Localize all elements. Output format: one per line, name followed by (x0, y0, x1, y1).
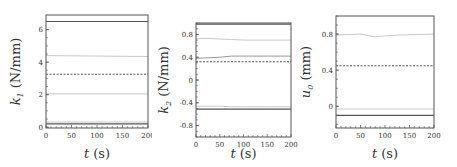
x-tick-label: 50 (67, 132, 76, 140)
x-tick-label: 200 (427, 132, 440, 140)
chart-panel-k1: 0501001502000246t (s)k1 (N/mm) (0, 0, 152, 167)
y-tick-label: 0.4 (182, 54, 194, 62)
x-tick-label: 50 (356, 132, 365, 140)
plot-frame (336, 16, 434, 128)
series-line-upper-light (196, 38, 291, 40)
y-tick-label: -0.4 (180, 99, 194, 107)
series-line-upper-light (336, 34, 434, 37)
plot-k1: 0501001502000246t (s)k1 (N/mm) (0, 0, 152, 167)
series-line-upper-light (46, 56, 148, 57)
x-axis: 050100150200 (44, 125, 152, 140)
x-axis-label: t (s) (372, 146, 398, 161)
y-tick-label: 6 (39, 26, 44, 34)
chart-panel-u0: 0501001502000.80.40t (s)u0 (mm) (300, 0, 457, 167)
y-tick-label: 0.8 (322, 31, 333, 39)
plot-frame (46, 15, 148, 128)
series-group (196, 24, 291, 109)
y-tick-label: -0.8 (180, 122, 194, 130)
plot-k2: 0501001502000.80.40-0.4-0.8t (s)k2 (N/mm… (152, 0, 300, 167)
plot-u0: 0501001502000.80.40t (s)u0 (mm) (300, 0, 457, 167)
x-tick-label: 200 (284, 141, 297, 149)
y-tick-label: 0.4 (322, 67, 334, 75)
y-axis-label: u0 (mm) (300, 46, 315, 98)
y-tick-label: 0 (189, 77, 193, 85)
x-tick-label: 150 (403, 132, 416, 140)
series-line-lower-light (196, 106, 291, 107)
x-axis-label: t (s) (230, 146, 256, 161)
x-tick-label: 0 (334, 132, 338, 140)
x-tick-label: 0 (194, 141, 198, 149)
x-tick-label: 200 (141, 132, 152, 140)
x-axis: 050100150200 (334, 125, 441, 140)
y-tick-label: 4 (39, 59, 44, 67)
y-tick-label: 0 (39, 124, 43, 132)
x-tick-label: 100 (378, 132, 391, 140)
x-tick-label: 100 (90, 132, 103, 140)
x-tick-label: 150 (116, 132, 129, 140)
x-tick-label: 150 (261, 141, 274, 149)
y-axis-label: k1 (N/mm) (8, 38, 25, 106)
y-axis: 0.80.40-0.4-0.8 (180, 23, 200, 137)
x-tick-label: 50 (215, 141, 224, 149)
series-line-mid-gray (196, 56, 291, 58)
y-tick-label: 2 (39, 91, 43, 99)
series-group (336, 34, 434, 115)
chart-panel-k2: 0501001502000.80.40-0.4-0.8t (s)k2 (N/mm… (152, 0, 300, 167)
y-axis: 0246 (39, 22, 49, 132)
series-group (46, 22, 148, 124)
y-axis-label: k2 (N/mm) (156, 46, 173, 114)
x-axis-label: t (s) (84, 146, 110, 161)
y-tick-label: 0.8 (182, 31, 193, 39)
x-tick-label: 0 (44, 132, 48, 140)
y-tick-label: 0 (329, 103, 333, 111)
